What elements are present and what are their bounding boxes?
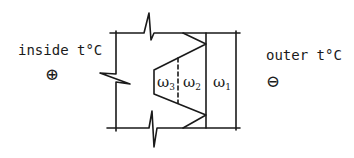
bottom-edge-line — [107, 111, 240, 147]
omega-3-label: ω3 — [157, 73, 175, 92]
left-edge-line — [100, 31, 130, 131]
top-edge-line — [110, 13, 240, 40]
omega-1-label: ω1 — [213, 73, 231, 92]
omega-2-label: ω2 — [183, 73, 201, 92]
wall-section-diagram: ω3 ω2 ω1 — [0, 0, 354, 158]
